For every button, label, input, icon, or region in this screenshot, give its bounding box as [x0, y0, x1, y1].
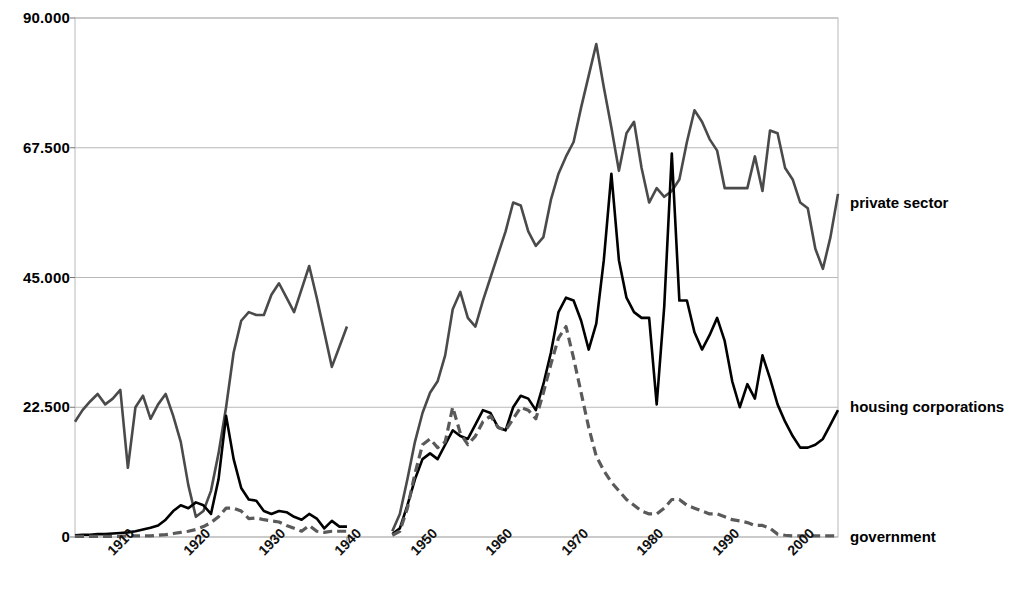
y-axis-tick-label: 0 — [0, 528, 70, 545]
y-axis-tick-label: 90.000 — [0, 9, 70, 26]
series-label-housing-corporations: housing corporations — [850, 398, 1004, 415]
series-line-housing-corporations — [392, 154, 838, 535]
series-line-government — [392, 327, 838, 536]
series-label-government: government — [850, 528, 936, 545]
y-axis-tick-label: 67.500 — [0, 139, 70, 156]
series-line-private-sector — [392, 44, 838, 531]
y-axis-tick-label: 45.000 — [0, 269, 70, 286]
series-line-housing-corporations — [75, 416, 347, 535]
y-axis-tick-label: 22.500 — [0, 398, 70, 415]
series-label-private-sector: private sector — [850, 194, 948, 211]
series-line-private-sector — [75, 266, 347, 517]
line-chart-plot — [0, 0, 1028, 590]
chart-container: 022.50045.00067.50090.000 19101920193019… — [0, 0, 1028, 590]
